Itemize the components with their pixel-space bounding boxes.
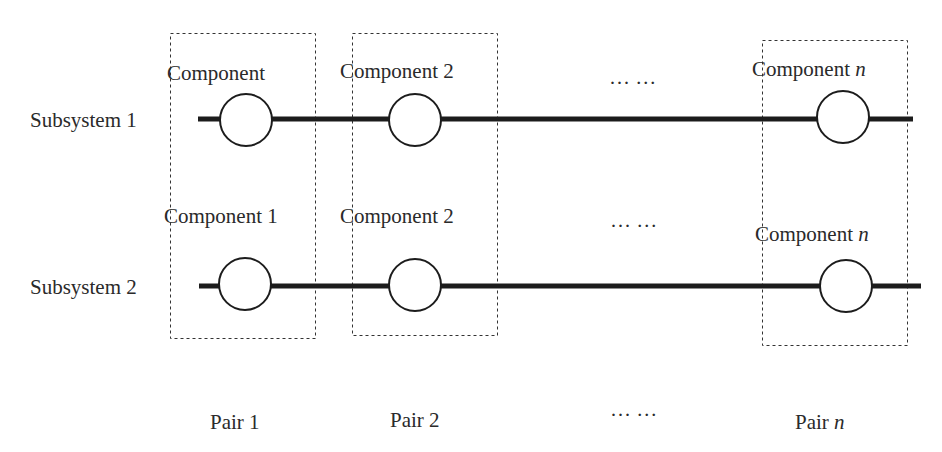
pair-label-2: Pair 2	[390, 408, 440, 432]
component-label-s2-n: Component n	[755, 222, 869, 246]
ellipsis-s2: ··· ···	[610, 214, 657, 238]
pair-label-1: Pair 1	[210, 410, 260, 434]
component-label-s2-2: Component 2	[340, 204, 454, 228]
component-label-s1-2: Component 2	[340, 59, 454, 83]
pair-label-n-index: n	[834, 410, 845, 434]
component-label-s1-n-index: n	[855, 57, 866, 81]
component-circle-s1-1	[220, 94, 272, 146]
component-label-s2-n-text: Component	[755, 222, 858, 246]
component-label-s2-1: Component 1	[164, 204, 278, 228]
subsystem-2-label: Subsystem 2	[30, 275, 137, 299]
component-label-s1-n-text: Component	[752, 57, 855, 81]
component-label-s2-n-index: n	[858, 222, 869, 246]
component-label-s1-1: Component	[167, 61, 265, 85]
component-circle-s1-n	[817, 91, 869, 143]
component-circle-s2-2	[389, 259, 441, 311]
component-circle-s1-2	[389, 94, 441, 146]
pair-label-n: Pair n	[795, 410, 845, 434]
subsystem-1-label: Subsystem 1	[30, 108, 137, 132]
ellipsis-s1: ··· ···	[609, 71, 656, 95]
diagram-svg: Subsystem 1 Subsystem 2 Component Compon…	[0, 0, 942, 452]
reliability-pair-diagram: Subsystem 1 Subsystem 2 Component Compon…	[0, 0, 942, 452]
component-circle-s2-n	[820, 260, 872, 312]
pairs-ellipsis: ··· ···	[610, 403, 657, 427]
component-circle-s2-1	[219, 258, 271, 310]
component-label-s1-n: Component n	[752, 57, 866, 81]
pair-label-n-text: Pair	[795, 410, 834, 434]
